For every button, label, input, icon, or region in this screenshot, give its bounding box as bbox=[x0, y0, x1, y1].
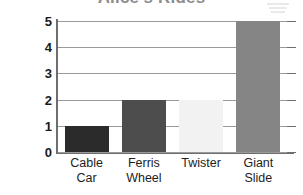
y-axis-tick-label: 3 bbox=[36, 67, 52, 80]
bar bbox=[65, 126, 109, 152]
gridline bbox=[58, 152, 287, 153]
x-axis-category-label-line1: Ferris bbox=[115, 156, 172, 171]
y-axis-tick-mark bbox=[287, 100, 296, 101]
x-axis-category-label-line1: Twister bbox=[173, 156, 230, 171]
y-axis-tick-label: 4 bbox=[36, 41, 52, 54]
chart-title: Alice's Rides bbox=[0, 0, 303, 8]
x-axis-category-label-line2: Slide bbox=[230, 171, 287, 186]
x-axis-category-label-line1: Giant bbox=[230, 156, 287, 171]
y-axis-tick-mark bbox=[287, 73, 296, 74]
bar bbox=[236, 21, 280, 152]
y-axis-tick-label: 1 bbox=[36, 120, 52, 133]
x-axis-category-label: Twister bbox=[173, 156, 230, 171]
x-axis-category-label-line1: Cable bbox=[58, 156, 115, 171]
y-axis-tick-mark bbox=[287, 21, 296, 22]
y-axis-tick-label: 5 bbox=[36, 15, 52, 28]
y-axis-tick-label: 0 bbox=[36, 146, 52, 159]
bar bbox=[122, 100, 166, 152]
y-axis-tick-mark bbox=[287, 152, 296, 153]
x-axis-category-label: CableCar bbox=[58, 156, 115, 186]
plot-area bbox=[58, 21, 287, 152]
x-axis-category-label: FerrisWheel bbox=[115, 156, 172, 186]
y-axis-tick-mark bbox=[287, 126, 296, 127]
bar bbox=[179, 100, 223, 152]
x-axis-category-label: GiantSlide bbox=[230, 156, 287, 186]
bar-chart-screenshot: Alice's Rides NUMBER OF RIDES 543210 Cab… bbox=[0, 0, 303, 195]
x-axis-category-label-line2: Car bbox=[58, 171, 115, 186]
y-axis-tick-label: 2 bbox=[36, 94, 52, 107]
y-axis-tick-mark bbox=[287, 47, 296, 48]
x-axis-category-label-line2: Wheel bbox=[115, 171, 172, 186]
